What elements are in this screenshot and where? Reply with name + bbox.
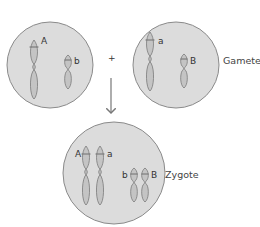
allele-label: B [151,170,157,180]
gamete-cell-2: a B [133,22,219,108]
allele-label: a [158,36,164,46]
allele-label: b [74,56,80,66]
allele-label: B [190,56,196,66]
allele-label: A [41,36,48,46]
allele-label: b [122,170,128,180]
plus-sign: + [108,53,116,63]
gametes-label: Gametes [223,55,260,66]
gamete-zygote-diagram: A b + a B Gametes [0,0,260,227]
zygote-cell: A a b B [63,122,165,224]
allele-label: a [107,149,113,159]
zygote-label: Zygote [165,169,199,180]
gamete-cell-1: A b [7,22,93,108]
allele-label: A [75,149,82,159]
